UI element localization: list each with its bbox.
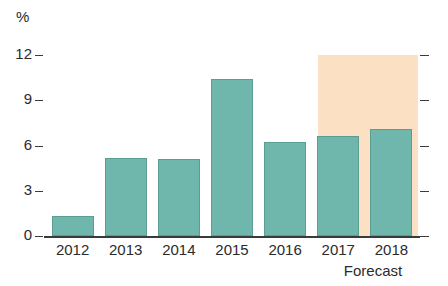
y-axis-tick-label: 3 [24, 181, 32, 198]
y-axis-tick-label: 9 [24, 90, 32, 107]
bar-2012 [52, 216, 94, 236]
bar-2018 [370, 129, 412, 236]
x-axis-label-2018: 2018 [365, 241, 418, 258]
y-axis-tick-label: 6 [24, 136, 32, 153]
x-axis-label-2015: 2015 [205, 241, 258, 258]
right-axis-tick-mark [420, 236, 429, 237]
bar-2013 [105, 158, 147, 236]
x-axis-label-2014: 2014 [152, 241, 205, 258]
x-axis-label-2012: 2012 [46, 241, 99, 258]
y-axis-tick-mark [35, 191, 43, 192]
right-axis-tick-mark [420, 191, 429, 192]
y-axis-tick-label: 12 [15, 45, 32, 62]
right-axis-tick-mark [420, 146, 429, 147]
bar-2016 [264, 142, 306, 236]
y-axis-tick-mark [35, 55, 43, 56]
bar-chart: % 0369122012201320142015201620172018 For… [0, 0, 448, 286]
y-axis-tick-label: 0 [24, 226, 32, 243]
bar-2017 [317, 136, 359, 236]
bar-2014 [158, 159, 200, 236]
bar-2015 [211, 79, 253, 236]
x-axis-label-2013: 2013 [99, 241, 152, 258]
y-axis-tick-mark [35, 100, 43, 101]
y-axis-tick-mark [35, 236, 43, 237]
y-axis-unit-label: % [16, 8, 29, 25]
forecast-caption: Forecast [318, 262, 428, 279]
x-axis-line [44, 236, 420, 238]
x-axis-label-2017: 2017 [312, 241, 365, 258]
x-axis-label-2016: 2016 [259, 241, 312, 258]
right-axis-tick-mark [420, 55, 429, 56]
y-axis-tick-mark [35, 146, 43, 147]
right-axis-tick-mark [420, 100, 429, 101]
